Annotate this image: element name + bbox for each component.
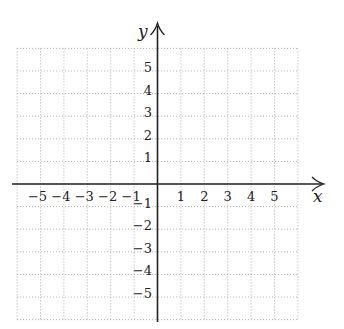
x-tick-label: 3 <box>224 189 232 204</box>
y-tick-label: 4 <box>144 83 152 98</box>
x-axis-label: x <box>313 186 323 206</box>
y-axis-label: y <box>137 21 148 41</box>
axes: x y <box>12 21 324 322</box>
y-tick-label: −4 <box>133 263 152 278</box>
y-tick-labels: 54321−1−2−3−4−5 <box>133 60 152 301</box>
x-tick-label: 1 <box>177 189 185 204</box>
y-tick-label: 5 <box>144 60 152 75</box>
x-tick-labels: −5−4−3−2−112345 <box>28 189 279 204</box>
x-tick-label: 4 <box>247 189 255 204</box>
x-tick-label: −2 <box>98 189 117 204</box>
y-tick-label: −3 <box>133 241 152 256</box>
y-tick-label: 2 <box>144 128 152 143</box>
x-tick-label: −4 <box>51 189 70 204</box>
x-tick-label: −5 <box>28 189 47 204</box>
y-tick-label: −5 <box>133 286 152 301</box>
coordinate-plane: x y −5−4−3−2−112345 54321−1−2−3−4−5 <box>0 0 344 329</box>
x-tick-label: 5 <box>270 189 278 204</box>
y-tick-label: −2 <box>133 218 152 233</box>
y-tick-label: 1 <box>144 150 152 165</box>
x-tick-label: 2 <box>200 189 208 204</box>
y-tick-label: 3 <box>144 105 152 120</box>
y-tick-label: −1 <box>133 196 152 211</box>
x-tick-label: −3 <box>75 189 94 204</box>
